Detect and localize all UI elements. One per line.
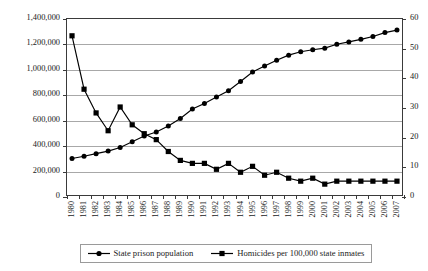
x-axis-tick-label: 1985 — [128, 201, 136, 217]
x-axis-tick — [199, 195, 200, 199]
y-axis-right-tick — [402, 49, 406, 50]
y-axis-left-tick-label: 600,000 — [33, 116, 60, 124]
y-axis-left-tick — [63, 121, 67, 122]
y-axis-left-tick — [63, 70, 67, 71]
x-axis-tick-label: 1996 — [261, 201, 269, 217]
y-axis-left-tick — [63, 19, 67, 20]
x-axis-tick — [272, 195, 273, 199]
y-axis-right-tick-label: 50 — [410, 44, 418, 52]
x-axis-tick-label: 1982 — [92, 201, 100, 217]
x-axis-tick-label: 1983 — [104, 201, 112, 217]
y-axis-left-tick-label: 200,000 — [33, 167, 60, 175]
x-axis-tick-label: 1989 — [176, 201, 184, 217]
legend-label: Homicides per 100,000 state inmates — [237, 249, 364, 258]
legend-item-state-prison-population: State prison population — [88, 249, 194, 258]
chart-container: 0200,000400,000600,000800,0001,000,0001,… — [0, 0, 428, 271]
y-axis-right-tick — [402, 108, 406, 109]
x-axis-tick — [248, 195, 249, 199]
x-axis-tick — [67, 195, 68, 199]
x-axis-tick — [356, 195, 357, 199]
x-axis-tick-label: 1998 — [285, 201, 293, 217]
chart-legend: State prison population Homicides per 10… — [80, 244, 372, 263]
x-axis-tick — [368, 195, 369, 199]
x-axis-tick — [187, 195, 188, 199]
x-axis-tick-label: 1988 — [164, 201, 172, 217]
y-axis-left-tick-label: 1,400,000 — [27, 14, 61, 22]
x-axis-tick — [91, 195, 92, 199]
x-axis-tick — [175, 195, 176, 199]
legend-item-homicides-per-100000: Homicides per 100,000 state inmates — [211, 249, 364, 258]
x-axis-tick — [320, 195, 321, 199]
y-axis-right-tick-label: 0 — [410, 192, 414, 200]
x-axis-tick — [284, 195, 285, 199]
y-axis-right-tick-label: 20 — [410, 133, 418, 141]
x-axis-tick — [392, 195, 393, 199]
x-axis-tick-label: 1987 — [152, 201, 160, 217]
x-axis-tick — [151, 195, 152, 199]
x-axis-tick-label: 2004 — [357, 201, 365, 217]
x-axis-tick — [139, 195, 140, 199]
x-axis-tick-label: 1994 — [237, 201, 245, 217]
x-axis-tick — [163, 195, 164, 199]
x-axis-tick — [404, 195, 405, 199]
y-axis-left-tick — [63, 44, 67, 45]
x-axis-tick — [380, 195, 381, 199]
y-axis-left-tick-label: 400,000 — [33, 141, 60, 149]
x-axis-tick-label: 1993 — [224, 201, 232, 217]
y-axis-right-tick-label: 10 — [410, 162, 418, 170]
x-axis-tick — [79, 195, 80, 199]
x-axis-tick — [223, 195, 224, 199]
x-axis-tick — [308, 195, 309, 199]
x-axis-tick — [127, 195, 128, 199]
x-axis-tick — [103, 195, 104, 199]
x-axis-tick-label: 1999 — [297, 201, 305, 217]
legend-marker-square-icon — [211, 249, 233, 258]
x-axis-tick-label: 1981 — [80, 201, 88, 217]
x-axis-tick-label: 2000 — [309, 201, 317, 217]
x-axis-tick-label: 2005 — [369, 201, 377, 217]
x-axis-tick-label: 2003 — [345, 201, 353, 217]
y-axis-right-tick — [402, 78, 406, 79]
gridline — [67, 172, 402, 173]
x-axis-tick — [115, 195, 116, 199]
x-axis-tick-label: 1984 — [116, 201, 124, 217]
y-axis-left-tick-label: 1,000,000 — [27, 65, 61, 73]
y-axis-left-tick — [63, 172, 67, 173]
legend-label: State prison population — [114, 249, 194, 258]
gridline — [67, 121, 402, 122]
x-axis-tick-label: 2001 — [321, 201, 329, 217]
x-axis-tick-label: 2002 — [333, 201, 341, 217]
x-axis-tick-label: 1980 — [68, 201, 76, 217]
gridline — [67, 146, 402, 147]
y-axis-right-tick-label: 30 — [410, 103, 418, 111]
gridline — [67, 44, 402, 45]
y-axis-right-tick — [402, 167, 406, 168]
gridline — [67, 95, 402, 96]
y-axis-left-tick-label: 800,000 — [33, 90, 60, 98]
plot-area — [66, 18, 403, 196]
x-axis-tick-label: 2007 — [393, 201, 401, 217]
y-axis-right-tick-label: 60 — [410, 14, 418, 22]
y-axis-left-tick — [63, 95, 67, 96]
x-axis-tick — [332, 195, 333, 199]
x-axis-tick-label: 1992 — [212, 201, 220, 217]
y-axis-right-tick — [402, 138, 406, 139]
x-axis-tick — [236, 195, 237, 199]
x-axis-tick-label: 2006 — [381, 201, 389, 217]
x-axis-tick-label: 1991 — [200, 201, 208, 217]
y-axis-right-tick — [402, 19, 406, 20]
x-axis-tick-label: 1986 — [140, 201, 148, 217]
x-axis-tick — [344, 195, 345, 199]
y-axis-left-tick-label: 1,200,000 — [27, 39, 61, 47]
x-axis-tick-label: 1995 — [249, 201, 257, 217]
x-axis-tick-label: 1997 — [273, 201, 281, 217]
y-axis-left-tick-label: 0 — [56, 192, 60, 200]
gridline — [67, 70, 402, 71]
y-axis-right-tick-label: 40 — [410, 73, 418, 81]
x-axis-tick — [211, 195, 212, 199]
y-axis-left-tick — [63, 146, 67, 147]
x-axis-tick — [296, 195, 297, 199]
legend-marker-circle-icon — [88, 249, 110, 258]
x-axis-tick — [260, 195, 261, 199]
x-axis-tick-label: 1990 — [188, 201, 196, 217]
